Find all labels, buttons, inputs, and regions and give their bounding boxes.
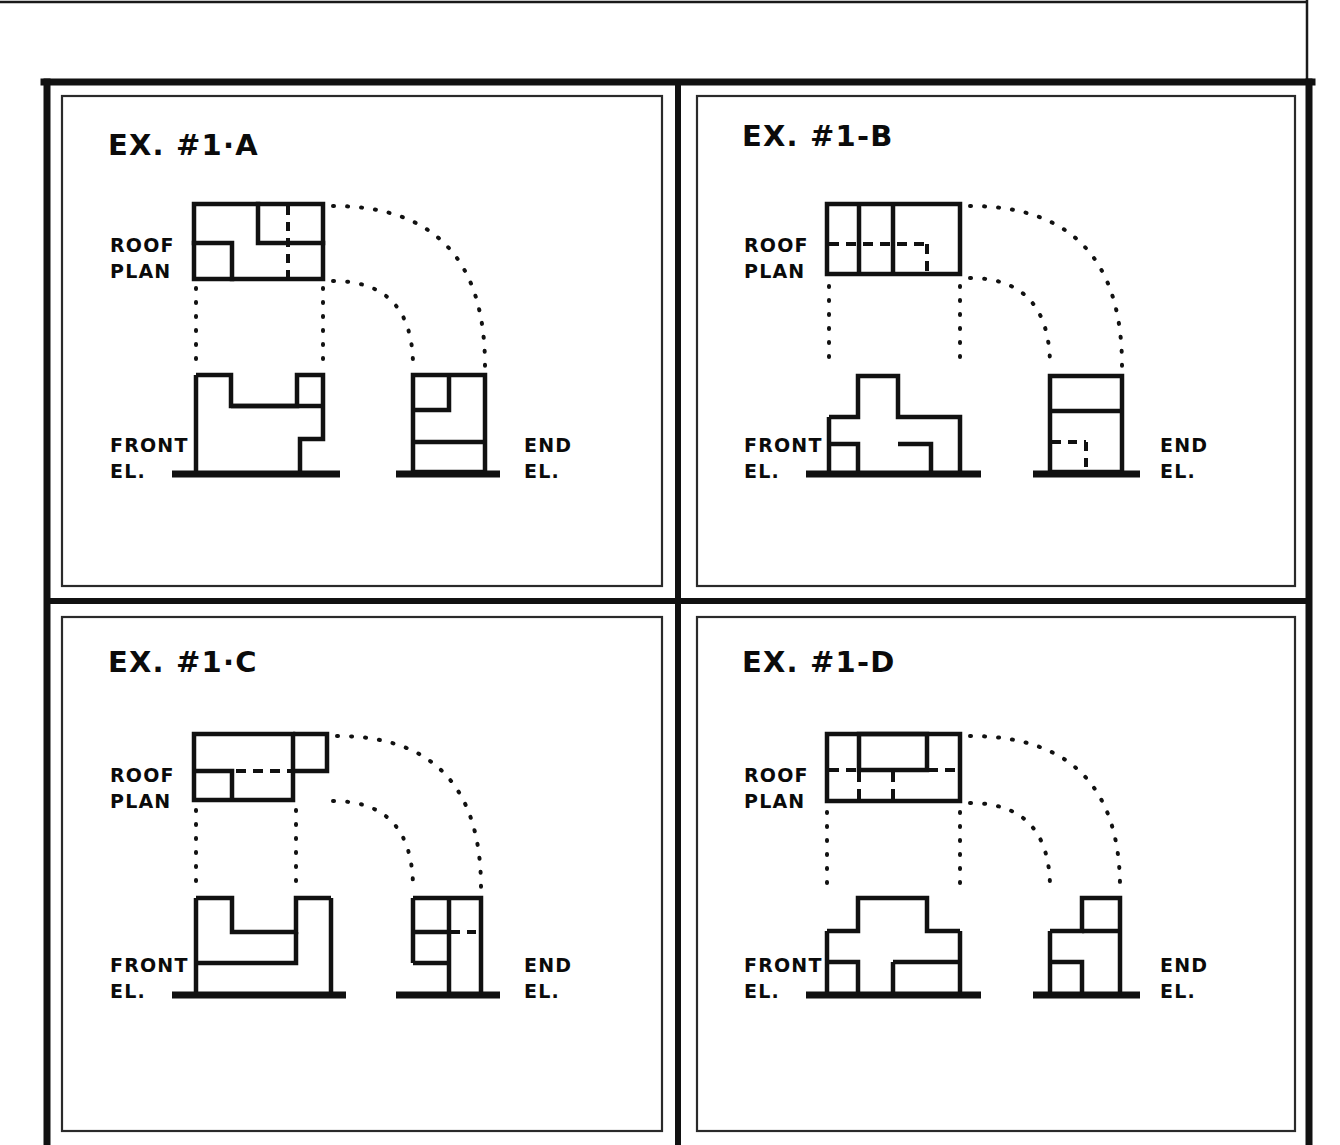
end-el-label-d-line2: EL.	[1160, 980, 1196, 1002]
front-el-label-b-line2: EL.	[744, 460, 780, 482]
front-el-label-c-line2: EL.	[110, 980, 146, 1002]
roof-plan-label-c-line2: PLAN	[110, 790, 171, 812]
panel-title-d: EX. #1-D	[742, 645, 895, 679]
front-el-label-a-line1: FRONT	[110, 434, 189, 456]
end-el-label-c-line1: END	[524, 954, 572, 976]
panel-title-a: EX. #1·A	[108, 128, 259, 162]
end-el-label-d-line1: END	[1160, 954, 1208, 976]
end-el-label-b-line1: END	[1160, 434, 1208, 456]
end-el-label-a-line2: EL.	[524, 460, 560, 482]
roof-plan-label-b-line2: PLAN	[744, 260, 805, 282]
front-el-label-a-line2: EL.	[110, 460, 146, 482]
front-el-label-c-line1: FRONT	[110, 954, 189, 976]
roof-plan-label-d-line2: PLAN	[744, 790, 805, 812]
end-el-label-a-line1: END	[524, 434, 572, 456]
roof-plan-label-b-line1: ROOF	[744, 234, 809, 256]
front-el-label-d-line1: FRONT	[744, 954, 823, 976]
roof-plan-label-c-line1: ROOF	[110, 764, 175, 786]
front-el-label-b-line1: FRONT	[744, 434, 823, 456]
sheet-svg: EX. #1·A ROOF PLAN FRONT EL. END EL.	[0, 0, 1340, 1145]
end-el-label-c-line2: EL.	[524, 980, 560, 1002]
panel-title-b: EX. #1-B	[742, 119, 894, 153]
roof-plan-label-a-line1: ROOF	[110, 234, 175, 256]
panel-title-c: EX. #1·C	[108, 645, 258, 679]
sheet-background	[0, 0, 1340, 1145]
roof-plan-label-a-line2: PLAN	[110, 260, 171, 282]
end-el-label-b-line2: EL.	[1160, 460, 1196, 482]
drawing-sheet: EX. #1·A ROOF PLAN FRONT EL. END EL.	[0, 0, 1340, 1145]
roof-plan-label-d-line1: ROOF	[744, 764, 809, 786]
front-el-label-d-line2: EL.	[744, 980, 780, 1002]
